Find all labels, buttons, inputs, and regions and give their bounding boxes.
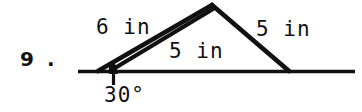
label-angle-measure: 30°	[104, 85, 145, 106]
problem-number: 9 .	[20, 49, 57, 69]
label-left-outer-side: 6 in	[96, 17, 151, 38]
geometry-problem-figure: 9 . 6 in 5 in 5 in 30°	[0, 0, 362, 112]
label-right-side: 5 in	[256, 19, 311, 40]
label-left-inner-side: 5 in	[169, 41, 224, 62]
